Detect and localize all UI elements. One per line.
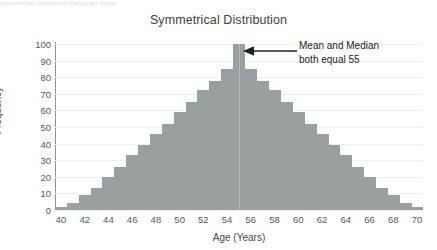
x-axis-tick-label: 44 — [103, 214, 114, 225]
annotation-line-2: both equal 55 — [299, 53, 379, 67]
bar — [221, 69, 233, 210]
x-axis-tick-label: 62 — [317, 214, 328, 225]
x-axis-tick-label: 50 — [174, 214, 185, 225]
x-axis-tick-label: 42 — [79, 214, 90, 225]
bar — [269, 90, 281, 210]
bar — [91, 188, 103, 210]
bar — [79, 195, 91, 210]
bar — [352, 167, 364, 210]
bar — [126, 155, 138, 210]
x-axis-tick-label: 70 — [412, 214, 423, 225]
bar — [364, 177, 376, 210]
bar — [292, 112, 304, 210]
bar — [67, 203, 79, 210]
bar — [328, 145, 340, 210]
bar — [186, 102, 198, 210]
bar — [316, 134, 328, 210]
bar — [174, 112, 186, 210]
callout-arrow-icon — [243, 45, 297, 57]
x-axis-tick-label: 58 — [269, 214, 280, 225]
bar — [114, 167, 126, 210]
x-axis-tick-label: 64 — [341, 214, 352, 225]
bar — [197, 90, 209, 210]
mean-median-annotation: Mean and Median both equal 55 — [299, 39, 379, 66]
x-axis-tick-label: 46 — [127, 214, 138, 225]
bar — [245, 69, 257, 210]
bar — [387, 195, 399, 210]
chart-title: Symmetrical Distribution — [0, 13, 437, 27]
x-axis-tick-label: 40 — [56, 214, 67, 225]
annotation-line-1: Mean and Median — [299, 39, 379, 53]
bar — [102, 177, 114, 210]
x-axis-tick-label: 56 — [246, 214, 257, 225]
center-marker-line — [239, 44, 240, 210]
bar — [399, 203, 411, 210]
x-axis-tick-label: 66 — [364, 214, 375, 225]
bar — [55, 207, 67, 210]
bar — [304, 124, 316, 210]
x-axis-tick-label: 60 — [293, 214, 304, 225]
chart-container: symmetrical distribution histogram figur… — [0, 0, 437, 250]
plot-area — [55, 44, 423, 210]
bar — [376, 188, 388, 210]
bar — [138, 145, 150, 210]
top-edge-artifact-text: symmetrical distribution histogram figur… — [0, 0, 437, 7]
x-axis-tick-label: 54 — [222, 214, 233, 225]
bar — [257, 81, 269, 210]
x-axis-tick-label: 48 — [151, 214, 162, 225]
x-axis-tick-label: 52 — [198, 214, 209, 225]
bar — [281, 102, 293, 210]
y-axis-label-wrap: Frequency — [0, 0, 40, 250]
x-axis-label: Age (Years) — [55, 232, 423, 243]
bar — [162, 124, 174, 210]
bar — [411, 207, 423, 210]
bar — [150, 134, 162, 210]
bar — [340, 155, 352, 210]
y-axis-label: Frequency — [0, 87, 3, 134]
gridline — [55, 210, 423, 211]
bar — [209, 81, 221, 210]
x-axis-tick-label: 68 — [388, 214, 399, 225]
